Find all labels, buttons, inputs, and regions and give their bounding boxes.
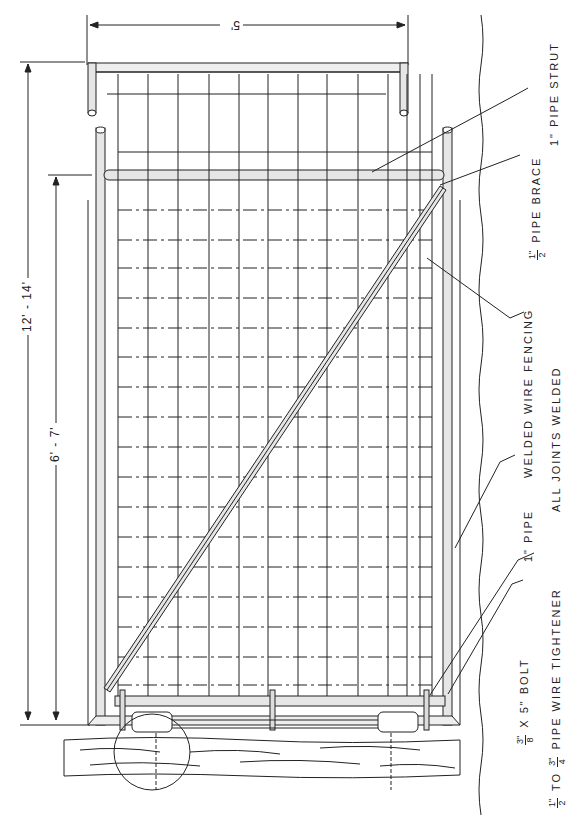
bolt-fraction: 3"8 (516, 735, 535, 745)
bolt-label: 3"8 X 5" BOLT (516, 658, 535, 745)
fence-line (479, 15, 483, 815)
tightener-bar (115, 696, 445, 706)
gate-drawing (0, 0, 585, 833)
pipe-brace-fraction: 1"2 (528, 250, 547, 260)
left-pipe (96, 127, 105, 725)
pipe-strut (104, 170, 444, 180)
all-joints-welded-label: ALL JOINTS WELDED (550, 367, 562, 512)
pipe-brace (104, 186, 446, 692)
width-dimension-line (87, 15, 408, 65)
overall-height-label: 12' - 14' (20, 278, 34, 335)
welded-wire-fencing-label: WELDED WIRE FENCING (522, 309, 534, 478)
right-pipe (443, 127, 452, 725)
pipe-label: 1" PIPE (522, 510, 534, 562)
top-frame-section (88, 63, 408, 116)
overall-height-dimension-line (20, 62, 90, 725)
tightener-fraction-max: 3"4 (548, 757, 567, 767)
strut-height-label: 6' - 7' (48, 423, 62, 465)
pipe-wire-tightener-label: 1"2 TO 3"4 PIPE WIRE TIGHTENER (548, 588, 567, 808)
pipe-brace-label: 1"2 PIPE BRACE (528, 157, 547, 260)
tightener-fraction-min: 1"2 (548, 798, 567, 808)
width-dimension-label: 5' (228, 18, 243, 32)
wood-post (64, 738, 460, 778)
pipe-strut-label: 1" PIPE STRUT (548, 42, 560, 146)
